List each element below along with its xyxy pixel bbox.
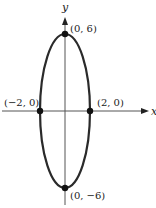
point-top — [62, 31, 68, 37]
y-axis-label: y — [61, 1, 69, 14]
point-top-label: (0, 6) — [70, 23, 97, 34]
point-bottom — [62, 185, 68, 191]
x-axis-label: x — [151, 105, 156, 118]
point-right-label: (2, 0) — [97, 97, 124, 108]
point-right — [87, 108, 93, 114]
y-axis-arrow-icon — [62, 17, 68, 25]
x-axis-arrow-icon — [141, 108, 149, 114]
ellipse-diagram: x y (0, 6) (0, −6) (−2, 0) (2, 0) — [0, 0, 156, 208]
point-bottom-label: (0, −6) — [70, 190, 105, 201]
point-left-label: (−2, 0) — [4, 97, 39, 108]
point-left — [37, 108, 43, 114]
